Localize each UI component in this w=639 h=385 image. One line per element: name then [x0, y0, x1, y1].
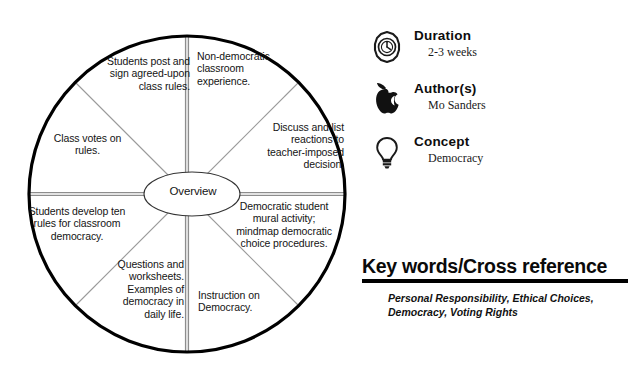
- wheel-diagram: Overview Students post and sign agreed-u…: [0, 0, 380, 385]
- keywords-heading: Key words/Cross reference: [362, 255, 630, 278]
- metadata-value-concept: Democracy: [428, 151, 636, 165]
- lightbulb-icon: [370, 134, 404, 172]
- wheel-hub-label: Overview: [147, 185, 239, 197]
- metadata-label-authors: Author(s): [414, 81, 636, 97]
- wheel-segment-democratic-mural-mindmap: Democratic student mural activity; mindm…: [233, 200, 335, 250]
- keywords-list: Personal Responsibility, Ethical Choices…: [388, 292, 618, 319]
- wheel-segment-students-post-sign: Students post and sign agreed-upon class…: [104, 55, 190, 92]
- stopwatch-icon: [370, 28, 404, 66]
- metadata-panel: Duration 2-3 weeks Author(s) Mo Sanders: [366, 28, 636, 187]
- wheel-segment-instruction-on-democracy: Instruction on Democracy.: [198, 289, 284, 314]
- wheel-segment-questions-worksheets: Questions and worksheets. Examples of de…: [111, 258, 184, 320]
- keywords-divider: [362, 279, 628, 283]
- metadata-row-concept: Concept Democracy: [366, 134, 636, 180]
- metadata-value-authors: Mo Sanders: [428, 98, 636, 112]
- metadata-value-duration: 2-3 weeks: [428, 45, 636, 59]
- keywords-block: Key words/Cross reference Personal Respo…: [362, 255, 630, 319]
- wheel-segment-students-develop-rules: Students develop ten rules for classroom…: [22, 205, 132, 242]
- metadata-label-duration: Duration: [414, 28, 636, 44]
- wheel-segment-non-democratic-experience: Non-democratic classroom experience.: [197, 50, 279, 87]
- wheel-segment-class-votes-on-rules: Class votes on rules.: [43, 132, 132, 157]
- apple-icon: [370, 81, 404, 119]
- metadata-row-authors: Author(s) Mo Sanders: [366, 81, 636, 127]
- wheel-segment-discuss-list-reactions: Discuss and list reactions to teacher-im…: [258, 121, 344, 171]
- metadata-row-duration: Duration 2-3 weeks: [366, 28, 636, 74]
- metadata-label-concept: Concept: [414, 134, 636, 150]
